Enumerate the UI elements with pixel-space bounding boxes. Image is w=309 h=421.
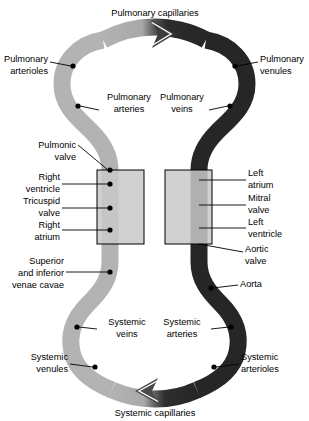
- label-pulmonary-arterioles-line1: Pulmonary: [4, 54, 48, 64]
- systemic-arterioles-marker: [211, 364, 216, 369]
- label-pulmonary-capillaries: Pulmonary capillaries: [111, 8, 199, 18]
- label-venae-cavae-line2: and inferior: [18, 268, 64, 278]
- label-aorta: Aorta: [240, 279, 263, 289]
- left-heart-box: [165, 170, 212, 244]
- circulatory-diagram: Pulmonary capillaries Pulmonary arteriol…: [0, 0, 309, 421]
- label-right-atrium-line1: Right: [39, 220, 61, 230]
- venae-cavae-marker: [107, 269, 112, 274]
- label-pulmonary-arteries-line2: arteries: [114, 104, 145, 114]
- right-heart-box: [97, 170, 144, 244]
- label-pulmonary-veins-line2: veins: [171, 104, 193, 114]
- label-left-atrium-line1: Left: [248, 168, 264, 178]
- label-pulmonary-veins-line1: Pulmonary: [160, 92, 204, 102]
- pulmonary-arterioles-marker: [70, 63, 75, 68]
- right-atrium-marker: [107, 227, 112, 232]
- label-pulmonary-venules-line1: Pulmonary: [260, 54, 304, 64]
- pulmonary-capillaries-vessel: [103, 27, 206, 40]
- label-right-atrium-line2: atrium: [34, 232, 60, 242]
- label-left-ventricle-line1: Left: [248, 217, 264, 227]
- systemic-venules-marker: [92, 364, 97, 369]
- label-left-atrium-line2: atrium: [248, 180, 274, 190]
- label-right-ventricle-line1: Right: [39, 172, 61, 182]
- label-venae-cavae-line1: Superior: [29, 256, 64, 266]
- pulmonary-arteries-marker: [75, 103, 80, 108]
- label-systemic-venules-line2: venules: [36, 364, 68, 374]
- label-left-ventricle-line2: ventricle: [248, 229, 282, 239]
- label-pulmonary-arterioles-line2: arterioles: [10, 66, 48, 76]
- label-pulmonary-venules-line2: venules: [260, 66, 292, 76]
- label-systemic-arterioles-line1: Systemic: [241, 352, 279, 362]
- label-pulmonic-valve-line2: valve: [55, 152, 76, 162]
- label-right-ventricle-line2: ventricle: [26, 184, 60, 194]
- label-pulmonic-valve-line1: Pulmonic: [38, 140, 76, 150]
- label-systemic-venules-line1: Systemic: [31, 352, 69, 362]
- pulmonary-venules-marker: [232, 63, 237, 68]
- label-venae-cavae-line3: venae cavae: [12, 280, 64, 290]
- systemic-veins-marker: [74, 324, 79, 329]
- pulmonic-valve-marker: [107, 167, 112, 172]
- pulmonary-veins-marker: [227, 103, 232, 108]
- label-systemic-capillaries: Systemic capillaries: [115, 408, 196, 418]
- label-systemic-veins-line1: Systemic: [108, 317, 146, 327]
- label-aortic-valve-line2: valve: [245, 256, 266, 266]
- tricuspid-valve-marker: [107, 205, 112, 210]
- label-pulmonary-arteries-line1: Pulmonary: [107, 92, 151, 102]
- label-aortic-valve-line1: Aortic: [245, 244, 269, 254]
- label-mitral-valve-line1: Mitral: [248, 193, 270, 203]
- label-tricuspid-valve-line1: Tricuspid: [23, 196, 60, 206]
- systemic-arteries-marker: [228, 324, 233, 329]
- label-systemic-arteries-line2: arteries: [167, 329, 198, 339]
- label-systemic-arteries-line1: Systemic: [163, 317, 201, 327]
- aorta-marker: [208, 285, 213, 290]
- label-tricuspid-valve-line2: valve: [39, 208, 60, 218]
- right-ventricle-marker: [107, 181, 112, 186]
- label-systemic-arterioles-line2: arterioles: [241, 364, 279, 374]
- label-mitral-valve-line2: valve: [248, 205, 269, 215]
- diagram-canvas: Pulmonary capillaries Pulmonary arteriol…: [0, 0, 309, 421]
- label-systemic-veins-line2: veins: [116, 329, 138, 339]
